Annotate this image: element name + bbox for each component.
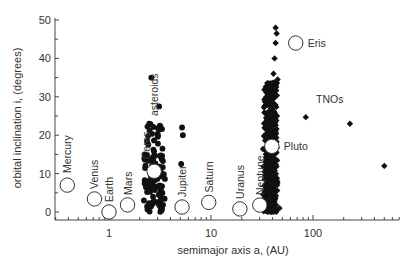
planet-marker-ceres xyxy=(147,164,161,178)
planet-marker-uranus xyxy=(233,202,247,216)
planet-label-mercury: Mercury xyxy=(61,134,73,173)
y-tick-label: 10 xyxy=(39,168,51,180)
x-tick-label: 10 xyxy=(205,227,217,239)
planet-marker-earth xyxy=(102,205,116,219)
planet-marker-mars xyxy=(120,198,134,212)
planet-marker-saturn xyxy=(202,195,216,209)
inclination-vs-semimajor-axis-chart: 01020304050110100 MercuryVenusEarthMarsC… xyxy=(0,0,412,271)
x-tick-label: 100 xyxy=(304,227,322,239)
planet-marker-eris xyxy=(289,36,303,50)
y-tick-label: 20 xyxy=(39,129,51,141)
planet-marker-venus xyxy=(87,192,101,206)
planet-label-uranus: Uranus xyxy=(234,165,246,199)
y-tick-label: 40 xyxy=(39,52,51,64)
planet-marker-mercury xyxy=(60,178,74,192)
planet-label-venus: Venus xyxy=(88,160,100,189)
planet-label-eris: Eris xyxy=(308,37,326,49)
y-tick-label: 50 xyxy=(39,14,51,26)
planet-marker-neptune xyxy=(253,198,267,212)
planet-label-pluto: Pluto xyxy=(284,140,308,152)
planet-label-earth: Earth xyxy=(103,177,115,202)
y-tick-label: 30 xyxy=(39,91,51,103)
point-labels: MercuryVenusEarthMarsCeresJupiterSaturnU… xyxy=(61,37,326,202)
planet-label-neptune: Neptune xyxy=(254,155,266,195)
x-tick-label: 1 xyxy=(106,227,112,239)
x-axis-title: semimajor axis a, (AU) xyxy=(177,244,288,256)
planet-marker-pluto xyxy=(265,139,279,153)
planet-label-saturn: Saturn xyxy=(203,161,215,192)
tnos-group-label: TNOs xyxy=(316,93,343,105)
planet-label-ceres: Ceres xyxy=(140,131,152,159)
asteroids-group-label: asteroids xyxy=(148,73,160,116)
tno-points xyxy=(260,24,388,215)
planet-label-jupiter: Jupiter xyxy=(176,165,188,197)
y-axis-title: orbital inclination i, (degrees) xyxy=(11,48,23,189)
planet-label-mars: Mars xyxy=(122,172,134,195)
planet-marker-jupiter xyxy=(175,200,189,214)
y-tick-label: 0 xyxy=(45,206,51,218)
